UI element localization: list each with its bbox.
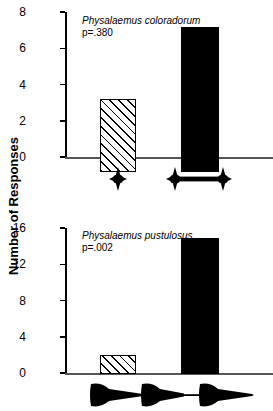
bar-whine-top: 4 <box>100 99 136 172</box>
bar-whine-chuck-top: 8 <box>181 27 219 172</box>
tick-mark <box>60 300 65 302</box>
y-tick-label: 0 <box>0 367 26 379</box>
y-tick-label: 8 <box>0 295 26 307</box>
plot-area-bottom: 0 4 8 12 16 2 15 <box>26 216 273 376</box>
y-tick-label: 2 <box>0 115 26 127</box>
species-name-bottom: Physalaemus pustulosus <box>82 230 193 242</box>
y-tick-label: 12 <box>0 258 26 270</box>
tick-mark <box>60 11 65 13</box>
x-axis-icon-row-bottom <box>65 378 273 411</box>
tick-mark <box>60 48 65 50</box>
y-axis-line-bottom <box>65 228 67 374</box>
tick-mark <box>60 120 65 122</box>
x-axis-category-whine-top <box>103 164 133 194</box>
x-axis-line-top <box>65 157 273 159</box>
whine-sonogram-small-icon <box>103 164 133 194</box>
tick-mark <box>60 84 65 86</box>
y-tick-label: 4 <box>0 79 26 91</box>
tick-mark <box>60 372 65 374</box>
y-tick-label: 0 <box>0 151 26 163</box>
tick-mark <box>60 156 65 158</box>
x-axis-icon-row-top <box>65 164 273 198</box>
y-tick-label: 6 <box>0 42 26 54</box>
p-value-top: p=.380 <box>82 27 200 39</box>
whine-chuck-sonogram-large-icon <box>140 378 258 411</box>
y-tick-label: 8 <box>0 6 26 18</box>
whine-chuck-sonogram-small-icon <box>162 164 236 194</box>
chart-panel-pustulosus: 0 4 8 12 16 2 15 <box>26 216 273 411</box>
species-name-top: Physalaemus coloradorum <box>82 15 200 27</box>
tick-mark <box>60 336 65 338</box>
panel-annotation-top: Physalaemus coloradorum p=.380 <box>82 15 200 38</box>
y-tick-label: 4 <box>0 331 26 343</box>
tick-mark <box>60 227 65 229</box>
tick-mark <box>60 264 65 266</box>
plot-area-top: 0 2 4 6 8 4 8 <box>26 6 273 171</box>
bar-whine-chuck-bottom: 15 <box>181 238 219 374</box>
x-axis-category-whine-chuck-top <box>162 164 236 194</box>
figure-container: Number of Responses 0 2 4 6 <box>0 0 273 411</box>
x-axis-category-whine-chuck-bottom <box>140 378 258 411</box>
y-axis-line-top <box>65 12 67 158</box>
chart-panel-coloradorum: 0 2 4 6 8 4 8 <box>26 6 273 206</box>
bar-whine-bottom: 2 <box>100 355 136 373</box>
p-value-bottom: p=.002 <box>82 242 193 254</box>
panel-annotation-bottom: Physalaemus pustulosus p=.002 <box>82 230 193 253</box>
y-axis-label-container: Number of Responses <box>0 0 26 411</box>
y-tick-label: 16 <box>0 222 26 234</box>
x-axis-line-bottom <box>65 373 273 375</box>
